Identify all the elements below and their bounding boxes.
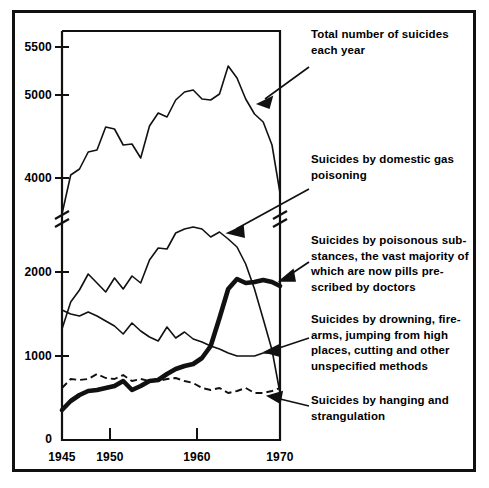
y-axis-label-5000: 5000 [8,88,52,102]
series-drowning-firearms-other [62,279,280,410]
series-total-suicides [62,66,280,214]
y-axis-label-0: 0 [8,432,52,446]
x-axis-label-1970: 1970 [254,450,306,464]
y-axis-label-1000: 1000 [8,349,52,363]
y-axis-label-5500: 5500 [8,40,52,54]
arrow-head-poison [280,270,295,281]
plot-axes [62,31,280,440]
arrow-head-drowning [265,345,280,356]
annotation-arrows [228,67,309,406]
annotation-total-suicides: Total number of suicides each year [311,27,477,58]
annotation-hanging-strangulation: Suicides by hanging and strangulation [311,393,483,424]
annotation-poisonous-substances: Suicides by poisonous sub- stances, the … [311,233,483,295]
annotation-domestic-gas: Suicides by domestic gas poisoning [311,152,477,183]
arrow-line-total [265,67,309,99]
series-poisonous-substances [62,227,280,393]
y-axis-label-4000: 4000 [8,171,52,185]
arrow-line-gas [236,189,309,229]
series-domestic-gas [62,310,280,356]
figure-container: 5500 5000 4000 2000 1000 0 1945 1950 196… [0,0,489,488]
annotation-drowning-firearms-other: Suicides by drowning, fire- arms, jumpin… [311,312,483,374]
x-axis-label-1960: 1960 [171,450,223,464]
y-axis-label-2000: 2000 [8,265,52,279]
arrow-head-hanging [268,392,282,403]
x-axis-label-1945: 1945 [36,450,88,464]
x-axis-label-1950: 1950 [84,450,136,464]
arrow-head-gas [228,226,244,237]
plot-frame [62,31,280,440]
